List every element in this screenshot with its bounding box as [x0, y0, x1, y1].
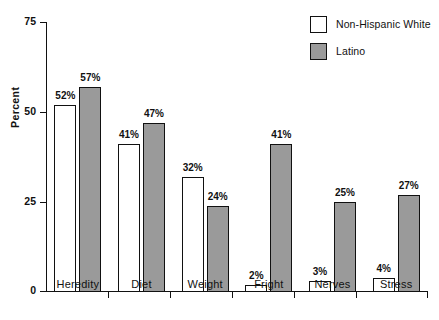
bar-diet-non-hispanic-white: 41%	[118, 144, 140, 292]
x-tick-5	[356, 292, 357, 298]
bar-heredity-latino: 57%	[79, 87, 101, 292]
x-tick-4	[294, 292, 295, 298]
bar-value-label: 32%	[183, 162, 203, 173]
bar-value-label: 24%	[208, 191, 228, 202]
y-tick-label-25: 25	[24, 195, 36, 207]
x-tick-3	[232, 292, 233, 298]
x-tick-1	[108, 292, 109, 298]
bar-value-label: 4%	[376, 263, 390, 274]
y-tick-0: 0	[40, 291, 46, 292]
y-tick-25: 25	[40, 202, 46, 203]
bar-value-label: 57%	[80, 72, 100, 83]
bar-chart: Non-Hispanic White Latino Percent 75 50 …	[0, 0, 439, 320]
x-tick-2	[170, 292, 171, 298]
y-tick-label-75: 75	[24, 15, 36, 27]
bar-heredity-non-hispanic-white: 52%	[54, 105, 76, 292]
x-axis-line	[46, 291, 428, 292]
bar-value-label: 25%	[335, 187, 355, 198]
x-axis-label-weight: Weight	[188, 278, 223, 290]
x-tick-6	[427, 292, 428, 298]
y-tick-75: 75	[40, 22, 46, 23]
y-axis-line	[46, 22, 47, 292]
bar-value-label: 27%	[399, 180, 419, 191]
x-axis-label-nerves: Nerves	[314, 278, 350, 290]
bar-weight-non-hispanic-white: 32%	[182, 177, 204, 292]
bar-value-label: 3%	[313, 266, 327, 277]
y-axis-title: Percent	[9, 87, 21, 128]
y-tick-50: 50	[40, 112, 46, 113]
plot-area: 75 50 25 0 52%57%41%47%32%24%2%41%3%25%4…	[46, 22, 428, 292]
x-axis-label-heredity: Heredity	[57, 278, 100, 290]
bar-value-label: 41%	[119, 129, 139, 140]
x-axis-label-fright: Fright	[254, 278, 283, 290]
bar-value-label: 41%	[271, 129, 291, 140]
y-tick-label-50: 50	[24, 105, 36, 117]
bar-value-label: 52%	[55, 90, 75, 101]
bar-diet-latino: 47%	[143, 123, 165, 292]
x-axis-label-diet: Diet	[131, 278, 151, 290]
y-tick-label-0: 0	[30, 284, 36, 296]
bar-fright-latino: 41%	[270, 144, 292, 292]
bar-value-label: 47%	[144, 108, 164, 119]
x-axis-label-stress: Stress	[380, 278, 412, 290]
